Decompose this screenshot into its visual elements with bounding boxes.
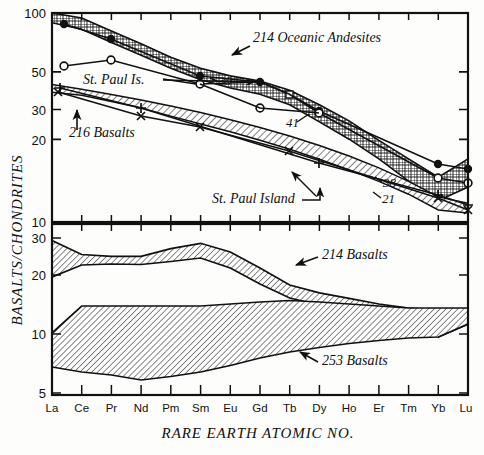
upper-panel: 214 Oceanic Andesites 216 Basalts St. Pa… [24,6,473,230]
ytick-10: 10 [32,215,46,230]
xtick-pm: Pm [162,402,179,414]
lower-panel: 214 Basalts 253 Basalts 30 20 10 5 [32,224,468,401]
annotation-text: 41 [286,115,299,130]
xtick-nd: Nd [134,402,149,414]
xtick-gd: Gd [252,402,267,414]
xtick-tm: Tm [400,402,417,414]
lower-y-tick-labels: 30 20 10 5 [32,231,46,401]
ytick-20: 20 [32,268,46,283]
upper-y-tick-labels: 100 50 30 20 10 [24,6,46,230]
annotation-text: 214 Basalts [322,247,388,262]
annotation-label-41: 41 [286,114,309,130]
ytick-10: 10 [32,327,46,342]
xtick-pr: Pr [106,402,118,414]
x-axis-title: RARE EARTH ATOMIC NO. [161,425,355,441]
xtick-yb: Yb [431,402,445,414]
ytick-50: 50 [32,65,46,80]
annotation-text: 214 Oceanic Andesites [253,30,382,45]
annotation-st-paul-island: St. Paul Island [212,172,320,206]
y-axis-title: BASALTS/CHONDRITES [9,155,25,326]
ytick-30: 30 [32,103,46,118]
xtick-ce: Ce [74,402,89,414]
annotation-text: 216 Basalts [69,125,135,140]
annotation-text: 21 [382,191,395,206]
xtick-er: Er [373,402,385,414]
ytick-5: 5 [39,386,46,401]
xtick-lu: Lu [460,402,473,414]
rare-earth-chart: 214 Oceanic Andesites 216 Basalts St. Pa… [0,0,484,455]
ytick-30: 30 [32,231,46,246]
annotation-214-basalts: 214 Basalts [296,247,388,265]
xtick-sm: Sm [192,402,209,414]
ytick-20: 20 [32,133,46,148]
annotation-253-basalts: 253 Basalts [300,352,388,368]
annotation-text: 253 Basalts [322,353,388,368]
xtick-tb: Tb [283,402,296,414]
xtick-dy: Dy [312,402,326,414]
ytick-100: 100 [24,6,46,21]
annotation-text: 39 [218,73,233,88]
xtick-eu: Eu [223,402,237,414]
annotation-text: St. Paul Is. [83,72,144,87]
annotation-text: 38 [382,175,397,190]
annotation-216-basalts: 216 Basalts [69,110,135,140]
xtick-ho: Ho [342,402,357,414]
annotation-label-21: 21 [373,191,395,206]
annotation-214-oceanic-andesites: 214 Oceanic Andesites [232,30,382,55]
annotation-text: St. Paul Island [212,191,296,206]
xtick-la: La [46,402,59,414]
band-253-basalts [52,301,468,381]
x-axis-category-labels: La Ce Pr Nd Pm Sm Eu Gd Tb Dy Ho Er Tm Y… [46,402,473,414]
figure-root: 214 Oceanic Andesites 216 Basalts St. Pa… [0,0,484,455]
